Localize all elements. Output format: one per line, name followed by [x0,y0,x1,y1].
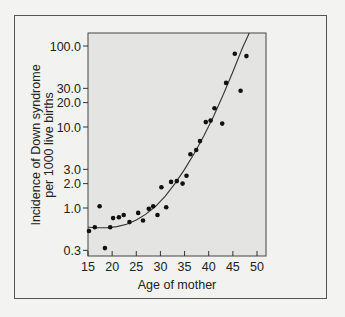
data-point [87,229,92,234]
data-point [212,106,217,111]
x-tick-label: 15 [81,260,95,274]
y-axis-title-line-1: Incidence of Down syndrome [29,64,43,225]
y-tick-label: 30.0 [57,82,81,96]
x-tick-label: 20 [105,260,119,274]
data-point [136,211,141,216]
data-point [97,204,102,209]
data-point [175,179,180,184]
x-tick-label: 45 [226,260,240,274]
plot-area [88,33,266,256]
x-axis-title: Age of mother [138,278,217,292]
y-tick-label: 1.0 [64,202,81,216]
data-point [103,246,108,251]
data-point [233,52,238,57]
y-tick-label: 2.0 [64,177,81,191]
chart: 0.31.02.03.010.020.030.0100.0 1520253035… [0,0,345,317]
data-point [121,213,126,218]
y-axis-title-line-2: per 1000 live births [42,92,56,198]
data-point [188,152,193,157]
data-point [155,213,160,218]
y-tick-label: 20.0 [57,96,81,110]
x-tick-label: 25 [129,260,143,274]
data-point [220,121,225,126]
data-point [208,118,213,123]
data-point [244,54,249,59]
y-tick-label: 100.0 [50,40,81,54]
data-point [194,148,199,153]
data-point [93,225,98,230]
data-point [127,220,132,225]
data-point [108,225,113,230]
data-point [147,206,152,211]
y-axis-title: Incidence of Down syndrome per 1000 live… [29,64,56,225]
data-point [151,204,156,209]
x-tick-label: 30 [153,260,167,274]
data-point [184,174,189,179]
x-tick-label: 40 [202,260,216,274]
y-tick-label: 3.0 [64,163,81,177]
x-tick-label: 50 [250,260,264,274]
data-point [238,89,243,94]
data-point [141,218,146,223]
data-point [224,81,229,86]
data-point [117,215,122,220]
data-point [164,205,169,210]
data-point [180,181,185,186]
data-point [204,120,209,125]
x-tick-label: 35 [178,260,192,274]
data-point [159,185,164,190]
y-tick-label: 0.3 [64,244,81,258]
y-tick-label: 10.0 [57,121,81,135]
data-point [169,180,174,185]
data-point [198,139,203,144]
data-point [111,216,116,221]
